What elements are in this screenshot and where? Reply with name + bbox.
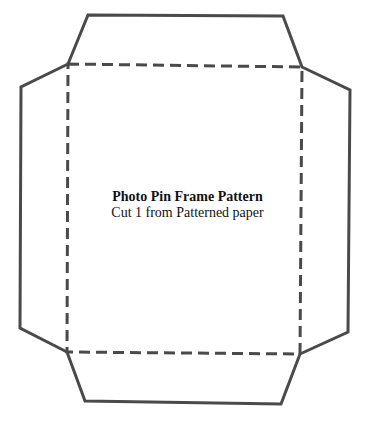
pattern-title: Photo Pin Frame Pattern — [0, 189, 375, 205]
pattern-instruction: Cut 1 from Patterned paper — [0, 205, 375, 221]
